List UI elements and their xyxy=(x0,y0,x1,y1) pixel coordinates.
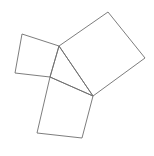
figure-canvas xyxy=(0,0,154,156)
diagram-background xyxy=(0,0,154,156)
pythagorean-diagram xyxy=(0,0,154,156)
